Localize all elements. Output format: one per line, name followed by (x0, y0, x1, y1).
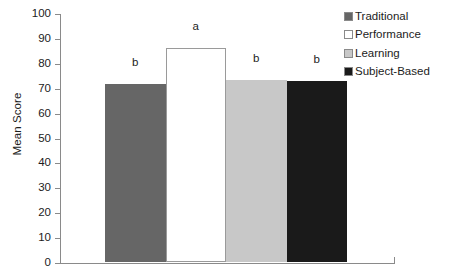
y-axis-tick (55, 238, 61, 239)
y-axis-tick-label: 70 (38, 83, 51, 95)
y-axis-tick-label: 20 (38, 207, 51, 219)
legend-swatch-icon (344, 49, 353, 58)
bar-subject-based (287, 81, 348, 262)
y-axis-tick-label: 100 (32, 8, 51, 20)
y-axis-tick (55, 114, 61, 115)
chart-legend: TraditionalPerformanceLearningSubject-Ba… (344, 7, 455, 81)
y-axis-tick-label: 60 (38, 108, 51, 120)
x-axis-right-cap (394, 257, 395, 264)
y-axis-tick (55, 64, 61, 65)
legend-swatch-icon (344, 67, 353, 76)
y-axis-tick (55, 263, 61, 264)
y-axis-tick (55, 213, 61, 214)
bar-chart: Mean Score 1009080706050403020100 babb T… (0, 0, 455, 278)
y-axis-tick-label: 10 (38, 232, 51, 244)
legend-label: Performance (355, 29, 421, 41)
legend-item-traditional[interactable]: Traditional (344, 7, 455, 26)
y-axis-label: Mean Score (11, 74, 23, 174)
y-axis-tick-label: 90 (38, 33, 51, 45)
legend-item-learning[interactable]: Learning (344, 44, 455, 63)
y-axis-tick (55, 163, 61, 164)
bar-performance (166, 48, 227, 262)
x-axis-line (60, 263, 395, 264)
y-axis-tick-label: 40 (38, 158, 51, 170)
y-axis-tick (55, 14, 61, 15)
y-axis-tick (55, 39, 61, 40)
legend-swatch-icon (344, 12, 353, 21)
bar-learning (226, 80, 287, 262)
significance-label: a (193, 21, 199, 33)
legend-swatch-icon (344, 30, 353, 39)
legend-item-subject-based[interactable]: Subject-Based (344, 63, 455, 82)
legend-label: Subject-Based (355, 66, 430, 78)
y-axis-tick-label: 50 (38, 133, 51, 145)
significance-label: b (253, 53, 259, 65)
y-axis-tick-label: 30 (38, 183, 51, 195)
y-axis-tick-label: 0 (45, 257, 51, 269)
y-axis-tick (55, 89, 61, 90)
significance-label: b (132, 57, 138, 69)
y-axis-tick (55, 188, 61, 189)
legend-label: Learning (355, 48, 400, 60)
y-axis-tick-label: 80 (38, 58, 51, 70)
legend-label: Traditional (355, 11, 408, 23)
legend-item-performance[interactable]: Performance (344, 26, 455, 45)
significance-label: b (314, 54, 320, 66)
y-axis-tick (55, 139, 61, 140)
bar-traditional (105, 84, 166, 262)
